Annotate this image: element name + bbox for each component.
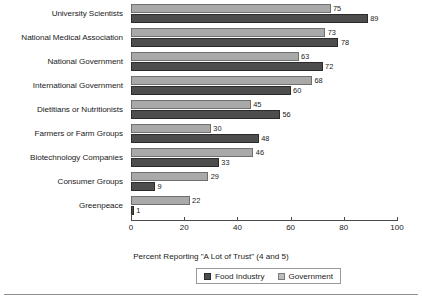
- bar-value-label: 45: [253, 100, 261, 109]
- x-axis-tick-label: 40: [233, 223, 242, 233]
- x-axis-tick: [344, 217, 345, 220]
- bar-government: [131, 28, 325, 37]
- bar-government: [131, 148, 253, 157]
- bar-government: [131, 76, 312, 85]
- bar-value-label: 29: [211, 172, 219, 181]
- bar-value-label: 60: [293, 86, 301, 95]
- bar-value-label: 1: [136, 206, 140, 215]
- bar-value-label: 22: [192, 196, 200, 205]
- x-axis-title: Percent Reporting "A Lot of Trust" (4 an…: [0, 252, 422, 262]
- bar-value-label: 46: [256, 148, 264, 157]
- x-axis-tick: [397, 217, 398, 220]
- bar-food-industry: [131, 182, 155, 191]
- bar-food-industry: [131, 86, 291, 95]
- category-label: Consumer Groups: [0, 177, 123, 186]
- bar-food-industry: [131, 14, 368, 23]
- bar-food-industry: [131, 38, 338, 47]
- bar-value-label: 68: [314, 76, 322, 85]
- bar-value-label: 63: [301, 52, 309, 61]
- bar-value-label: 78: [341, 38, 349, 47]
- bar-value-label: 73: [328, 28, 336, 37]
- bar-value-label: 75: [333, 4, 341, 13]
- category-axis: University ScientistsNational Medical As…: [0, 4, 127, 220]
- bar-food-industry: [131, 110, 280, 119]
- legend-label: Government: [289, 272, 334, 281]
- x-axis-tick-label: 0: [129, 223, 133, 233]
- bar-value-label: 72: [325, 62, 333, 71]
- bar-food-industry: [131, 62, 323, 71]
- bar-value-label: 89: [370, 14, 378, 23]
- plot-area: 7589737863726860455630484633299221: [131, 4, 397, 220]
- legend-item: Government: [278, 272, 334, 281]
- bar-government: [131, 124, 211, 133]
- legend-item: Food Industry: [204, 272, 265, 281]
- bar-value-label: 30: [213, 124, 221, 133]
- bar-government: [131, 100, 251, 109]
- x-axis-tick: [184, 217, 185, 220]
- x-axis-tick-label: 20: [180, 223, 189, 233]
- bar-government: [131, 4, 331, 13]
- x-axis-tick-label: 60: [286, 223, 295, 233]
- bar-value-label: 33: [221, 158, 229, 167]
- category-label: National Government: [0, 57, 123, 66]
- legend-label: Food Industry: [215, 272, 265, 281]
- bar-chart: University ScientistsNational Medical As…: [0, 0, 422, 303]
- bar-government: [131, 52, 299, 61]
- bar-value-label: 56: [282, 110, 290, 119]
- category-label: International Government: [0, 81, 123, 90]
- category-label: Farmers or Farm Groups: [0, 129, 123, 138]
- x-axis-tick-label: 80: [339, 223, 348, 233]
- bottom-divider: [4, 294, 418, 295]
- x-axis-line: [131, 220, 398, 221]
- x-axis-tick: [291, 217, 292, 220]
- category-label: National Medical Association: [0, 33, 123, 42]
- x-axis-tick-label: 100: [390, 223, 403, 233]
- bar-value-label: 9: [157, 182, 161, 191]
- bar-government: [131, 172, 208, 181]
- category-label: University Scientists: [0, 9, 123, 18]
- category-label: Greenpeace: [0, 201, 123, 210]
- x-axis-origin-tick: [131, 214, 132, 220]
- category-label: Dietitians or Nutritionists: [0, 105, 123, 114]
- legend-swatch-icon: [204, 273, 211, 280]
- x-axis-tick: [237, 217, 238, 220]
- bar-government: [131, 196, 190, 205]
- legend-swatch-icon: [278, 273, 285, 280]
- bar-food-industry: [131, 134, 259, 143]
- chart-legend: Food IndustryGovernment: [196, 268, 341, 284]
- bar-food-industry: [131, 158, 219, 167]
- category-label: Biotechnology Companies: [0, 153, 123, 162]
- bar-value-label: 48: [261, 134, 269, 143]
